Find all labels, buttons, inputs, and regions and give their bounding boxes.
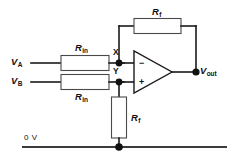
ground-rail-label: 0 V [24,134,38,142]
resistor-rin-a-body [61,56,109,71]
resistor-rf-feedback-body [134,19,181,34]
junction-dot-node-y [116,79,123,86]
junction-dot-ground [115,143,123,151]
opamp-inverting-sign: − [139,59,144,68]
source-label-vb: VB [11,76,22,86]
node-label-x: X [113,48,119,57]
resistor-label-rin-a: Rin [75,43,88,53]
resistor-rin-b-body [61,75,109,90]
resistor-label-rf-ground: Rf [131,113,140,123]
node-label-y: Y [113,67,119,76]
junction-dot-vout [192,68,199,75]
circuit-diagram-canvas: VA VB Rin Rin Rf Rf X Y − + Vout 0 V [0,0,227,162]
source-label-va: VA [11,57,22,67]
resistor-rf-ground-body [112,97,127,138]
opamp-noninverting-sign: + [139,78,144,87]
output-label-vout: Vout [200,66,216,76]
resistor-label-rf-feedback: Rf [152,7,161,17]
resistor-label-rin-b: Rin [75,92,88,102]
